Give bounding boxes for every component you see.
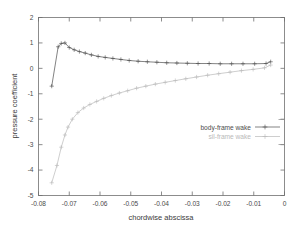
series-line	[52, 43, 271, 86]
legend: body-frame wake sil-frame wake	[200, 120, 284, 145]
x-tick-label: -0.01	[246, 200, 261, 207]
x-axis-title: chordwise abscissa	[128, 213, 194, 222]
legend-label-sil-frame-wake: sil-frame wake	[208, 133, 251, 140]
y-tick-label: 0	[30, 65, 34, 72]
y-tick-label: -1	[28, 90, 34, 97]
x-tick-label: -0.06	[92, 200, 107, 207]
x-tick-label: -0.07	[62, 200, 77, 207]
y-tick-label: -3	[28, 141, 34, 148]
y-axis-tick-labels: 210-1-2-3-4-5	[28, 14, 34, 199]
y-tick-label: -4	[28, 166, 34, 173]
y-axis-title: pressure coefficient	[10, 73, 19, 139]
series-body-frame-wake	[50, 41, 273, 88]
data-series-group	[50, 41, 273, 185]
y-tick-label: -2	[28, 116, 34, 123]
x-axis-tick-labels: -0.08-0.07-0.06-0.05-0.04-0.03-0.02-0.01…	[31, 200, 287, 207]
legend-border	[279, 120, 285, 145]
x-tick-label: -0.04	[154, 200, 169, 207]
x-tick-label: -0.02	[215, 200, 230, 207]
legend-marker-sil-frame-wake	[263, 134, 268, 139]
chart-canvas: -0.08-0.07-0.06-0.05-0.04-0.03-0.02-0.01…	[0, 0, 307, 233]
plot-frame	[39, 18, 285, 196]
y-tick-label: 2	[30, 14, 34, 21]
x-tick-label: -0.03	[185, 200, 200, 207]
y-tick-label: 1	[30, 39, 34, 46]
y-tick-label: -5	[28, 192, 34, 199]
x-tick-label: 0	[283, 200, 287, 207]
legend-marker-body-frame-wake	[263, 125, 268, 130]
legend-label-body-frame-wake: body-frame wake	[200, 124, 251, 132]
x-tick-label: -0.08	[31, 200, 46, 207]
x-tick-label: -0.05	[123, 200, 138, 207]
y-axis-ticks	[39, 18, 285, 196]
series-markers	[50, 41, 273, 88]
chart-figure: -0.08-0.07-0.06-0.05-0.04-0.03-0.02-0.01…	[0, 0, 307, 233]
x-axis-ticks	[39, 18, 285, 196]
